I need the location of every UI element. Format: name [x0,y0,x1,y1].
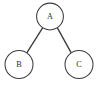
node-a[interactable]: A [37,3,64,30]
node-a-label: A [47,12,53,21]
edge-a-c [57,28,71,54]
edge-group [27,28,72,54]
edge-a-b [27,28,43,54]
node-b[interactable]: B [5,51,33,79]
tree-canvas: A B C [0,0,101,86]
node-c[interactable]: C [65,51,93,79]
node-c-label: C [76,60,82,69]
binary-tree-diagram: A B C [0,0,101,86]
node-b-label: B [16,60,22,69]
